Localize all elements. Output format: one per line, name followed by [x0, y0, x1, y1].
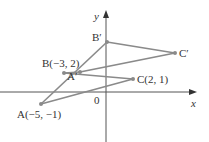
label-b-prime: B′ [92, 31, 102, 43]
point-b [62, 71, 66, 75]
point-a [39, 102, 43, 106]
label-b: B(−3, 2) [42, 57, 80, 70]
translation-diagram: y x 0 A(−5, −1) B(−3, 2) C(2, 1) A′ B′ C… [0, 0, 209, 142]
point-b-prime [105, 40, 109, 44]
label-c-prime: C′ [179, 47, 189, 59]
origin-label: 0 [94, 94, 100, 106]
point-c-prime [173, 51, 177, 55]
point-a-prime [78, 70, 82, 74]
label-c: C(2, 1) [137, 73, 169, 86]
label-a-prime: A′ [67, 70, 77, 82]
point-c [131, 77, 135, 81]
label-a: A(−5, −1) [17, 108, 62, 121]
segment-cprime-aprime [80, 53, 175, 72]
x-axis-arrow-icon [189, 89, 197, 95]
x-axis-label: x [190, 97, 196, 109]
y-axis-label: y [93, 10, 99, 22]
segment-bprime-cprime [107, 42, 175, 53]
y-axis-arrow-icon [103, 10, 109, 18]
